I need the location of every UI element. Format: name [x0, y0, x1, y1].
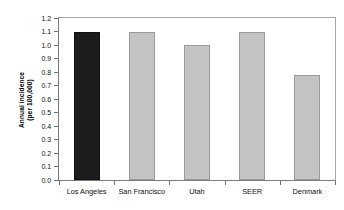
bar-denmark [294, 75, 320, 180]
y-axis-tick: 1.2 [42, 13, 58, 23]
y-axis-tick-label: 0.2 [42, 150, 54, 157]
x-axis-label: Utah [169, 187, 224, 196]
y-axis-tick-label: 0.7 [42, 82, 54, 89]
bar-san-francisco [129, 32, 155, 181]
y-axis-tick-label: 0.3 [42, 136, 54, 143]
y-axis-tick: 0.2 [42, 148, 58, 158]
y-axis-tick: 0.3 [42, 135, 58, 145]
x-axis-tick-mark [114, 181, 115, 185]
y-axis-tick: 1.1 [42, 27, 58, 37]
y-axis-ticks: 1.21.11.00.90.80.70.60.50.40.30.20.10.0 [0, 17, 58, 181]
y-axis-tick-label: 0.1 [42, 163, 54, 170]
bar-slot [169, 18, 224, 180]
y-axis-tick-label: 0.4 [42, 123, 54, 130]
y-axis-tick: 0.7 [42, 81, 58, 91]
y-axis-tick-label: 0.8 [42, 69, 54, 76]
bar-utah [184, 45, 210, 180]
x-axis-label: San Francisco [114, 187, 169, 196]
bar-slot [59, 18, 114, 180]
y-axis-tick: 0.0 [42, 175, 58, 185]
y-axis-tick: 0.5 [42, 108, 58, 118]
bar-slot [114, 18, 169, 180]
y-axis-tick-label: 1.1 [42, 28, 54, 35]
x-axis-tick-mark [280, 181, 281, 185]
y-axis-tick: 0.4 [42, 121, 58, 131]
bar-slot [280, 18, 335, 180]
y-axis-tick: 0.6 [42, 94, 58, 104]
bar-slot [225, 18, 280, 180]
y-axis-tick-label: 1.0 [42, 42, 54, 49]
y-axis-tick-label: 0.6 [42, 96, 54, 103]
bar-series [59, 18, 335, 180]
x-axis-label: SEER [225, 187, 280, 196]
y-axis-tick-label: 0.5 [42, 109, 54, 116]
x-axis-label: Denmark [280, 187, 335, 196]
x-axis-tick-mark [335, 181, 336, 185]
y-axis-tick: 1.0 [42, 40, 58, 50]
y-axis-tick: 0.9 [42, 54, 58, 64]
x-axis-tick-mark [59, 181, 60, 185]
x-axis-tick-mark [225, 181, 226, 185]
y-axis-tick: 0.8 [42, 67, 58, 77]
bar-chart: Annual incidence (per 100,000) 1.21.11.0… [0, 0, 344, 210]
y-axis-tick: 0.1 [42, 162, 58, 172]
bar-seer [239, 32, 265, 181]
bar-los-angeles [74, 32, 100, 181]
x-axis-labels: Los AngelesSan FranciscoUtahSEERDenmark [59, 187, 335, 203]
y-axis-tick-label: 0.0 [42, 177, 54, 184]
x-axis-ticks [58, 181, 336, 186]
x-axis-tick-mark [169, 181, 170, 185]
y-axis-tick-label: 0.9 [42, 55, 54, 62]
y-axis-tick-label: 1.2 [42, 15, 54, 22]
x-axis-label: Los Angeles [59, 187, 114, 196]
